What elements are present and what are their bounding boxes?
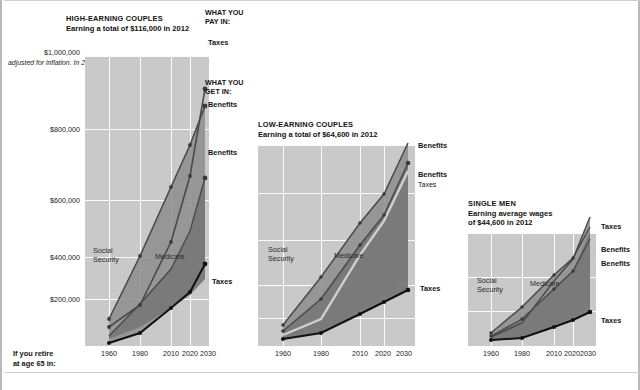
end-label-benefits-lower-1: Benefits bbox=[208, 148, 237, 158]
band-label-social-security-2: Social Security bbox=[268, 245, 294, 263]
end-label-benefits-upper-1: Benefits bbox=[208, 100, 237, 110]
plot-area-high-earning: Social Security Medicare bbox=[85, 56, 209, 346]
panel-subtitle-single-men-line2: of $44,600 in 2012 bbox=[468, 218, 533, 228]
band-label-line1: Social bbox=[477, 276, 497, 285]
series-svg-high-earning bbox=[85, 56, 209, 346]
legend-pay-in-line2: PAY IN: bbox=[205, 17, 243, 26]
x-tick-1980: 1980 bbox=[128, 349, 152, 358]
legend-pay-in-line1: WHAT YOU bbox=[205, 8, 243, 17]
footer-caption-strip bbox=[2, 380, 638, 390]
end-label-taxes-baseline-1: Taxes bbox=[212, 277, 232, 287]
band-label-medicare-2: Medicare bbox=[334, 251, 364, 260]
end-label-benefits-upper-3: Benefits bbox=[601, 245, 630, 255]
end-label-taxes-baseline-2: Taxes bbox=[420, 284, 440, 294]
band-label-line2: Security bbox=[477, 285, 503, 294]
x-tick-2030: 2030 bbox=[392, 349, 416, 358]
panel-title-low-earning: LOW-EARNING COUPLES bbox=[258, 120, 353, 129]
y-axis-label-600000: $600,000 bbox=[8, 196, 80, 206]
legend-pay-in-heading: WHAT YOU PAY IN: bbox=[205, 8, 243, 26]
y-axis-label-200000: $200,000 bbox=[8, 295, 80, 305]
axis-caption-line1: If you retire bbox=[13, 349, 56, 359]
y-axis-label-400000: $400,000 bbox=[8, 253, 80, 263]
x-tick-2010: 2010 bbox=[348, 349, 372, 358]
plot-area-single-men: Social Security Medicare bbox=[468, 233, 596, 346]
end-label-taxes-1: Taxes bbox=[208, 38, 228, 48]
x-tick-1980: 1980 bbox=[510, 349, 534, 358]
y-axis-label-1000000: $1,000,000 adjusted for inflation. In 20… bbox=[8, 48, 80, 67]
x-tick-1960: 1960 bbox=[97, 349, 121, 358]
end-label-taxes-2: Taxes bbox=[418, 180, 436, 190]
x-tick-1980: 1980 bbox=[309, 349, 333, 358]
legend-get-in-heading: WHAT YOU GET IN: bbox=[205, 78, 243, 96]
band-label-social-security-3: Social Security bbox=[477, 276, 503, 294]
end-label-taxes-baseline-3: Taxes bbox=[601, 316, 621, 326]
panel-subtitle-high-earning: Earning a total of $116,000 in 2012 bbox=[66, 24, 189, 34]
panel-title-single-men: SINGLE MEN bbox=[468, 199, 516, 208]
band-label-line1: Social bbox=[268, 245, 288, 254]
panel-title-high-earning: HIGH-EARNING COUPLES bbox=[66, 14, 163, 23]
legend-get-in-line2: GET IN: bbox=[205, 87, 243, 96]
band-label-medicare-3: Medicare bbox=[530, 279, 560, 288]
end-label-benefits-lower-3: Benefits bbox=[601, 259, 630, 269]
x-tick-2030: 2030 bbox=[576, 349, 600, 358]
band-label-line1: Social bbox=[93, 246, 113, 255]
plot-area-low-earning: Social Security Medicare bbox=[258, 145, 415, 346]
y-axis-note: adjusted for inflation. In 2012 dollars bbox=[8, 58, 80, 67]
legend-get-in-line1: WHAT YOU bbox=[205, 78, 243, 87]
y-axis-label-800000: $800,000 bbox=[8, 125, 80, 135]
y-tick-1000000: $1,000,000 bbox=[8, 48, 80, 58]
axis-caption: If you retire at age 65 in: bbox=[13, 349, 56, 368]
axis-caption-line2: at age 65 in: bbox=[13, 359, 56, 369]
x-tick-2030: 2030 bbox=[196, 349, 220, 358]
end-label-taxes-3: Taxes bbox=[601, 222, 621, 232]
band-label-social-security-1: Social Security bbox=[93, 246, 119, 264]
band-label-medicare-1: Medicare bbox=[155, 252, 185, 261]
panel-high-earning-couples: HIGH-EARNING COUPLES Earning a total of … bbox=[0, 0, 240, 390]
band-label-line2: Security bbox=[93, 255, 119, 264]
panel-subtitle-low-earning: Earning a total of $64,600 in 2012 bbox=[258, 130, 377, 140]
end-label-benefits-upper-2: Benefits bbox=[418, 141, 447, 151]
x-tick-1960: 1960 bbox=[479, 349, 503, 358]
x-tick-1960: 1960 bbox=[271, 349, 295, 358]
band-label-line2: Security bbox=[268, 254, 294, 263]
panel-single-men: SINGLE MEN Earning average wages of $44,… bbox=[455, 0, 640, 390]
end-label-benefits-lower-2: Benefits bbox=[418, 170, 447, 180]
panel-low-earning-couples: LOW-EARNING COUPLES Earning a total of $… bbox=[240, 0, 455, 390]
